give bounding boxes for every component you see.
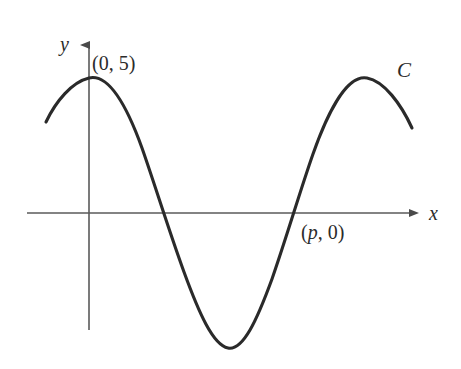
point-label-x-intercept: (p, 0) [301,222,344,242]
point-label-y-intercept: (0, 5) [92,53,135,73]
paren-open: ( [301,221,308,243]
y-axis-label: y [60,34,69,54]
figure-container: y x C (0, 5) (p, 0) [0,0,461,369]
variable-p: p [308,221,318,243]
paren-rest: , 0) [318,221,345,243]
curve-label-c: C [397,60,411,81]
graph-canvas [0,0,461,369]
x-axis-label: x [429,203,438,223]
